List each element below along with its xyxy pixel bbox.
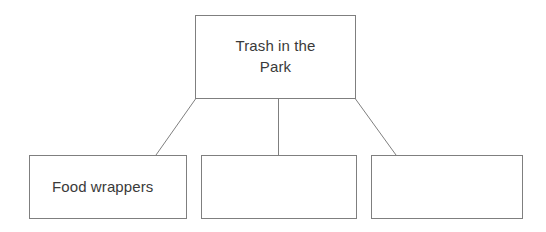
- node-child-2[interactable]: [201, 155, 357, 219]
- node-root[interactable]: Trash in the Park: [195, 15, 356, 99]
- node-child-1[interactable]: Food wrappers: [29, 155, 187, 219]
- connector-root-to-child-1: [156, 99, 196, 155]
- connector-root-to-child-3: [356, 99, 397, 155]
- node-child-1-label: Food wrappers: [30, 177, 153, 198]
- diagram-canvas: Trash in the Park Food wrappers: [0, 0, 546, 232]
- node-root-label: Trash in the Park: [222, 36, 330, 77]
- node-child-3[interactable]: [371, 155, 523, 219]
